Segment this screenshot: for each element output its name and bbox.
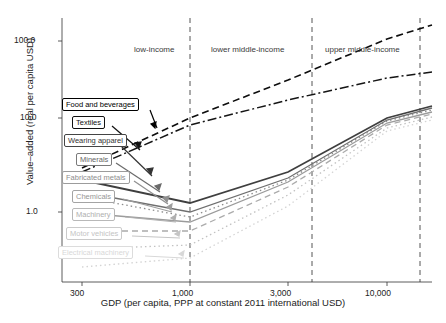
plot-area: [62, 18, 432, 282]
x-tick-3000: 3,000: [270, 288, 291, 298]
series-label-machinery: Machinery: [72, 208, 115, 221]
y-tick-100: 100.0: [14, 35, 35, 45]
region-label-lower-middle-income: lower middle-income: [211, 45, 284, 54]
series-label-minerals: Minerals: [76, 153, 112, 166]
region-label-low-income: low-income: [134, 45, 174, 54]
x-tick-1000: 1,000: [172, 288, 193, 298]
x-axis-label: GDP (per capita, PPP at constant 2011 in…: [0, 297, 446, 308]
y-tick-10: 10.0: [20, 112, 37, 122]
series-label-food-and-beverages: Food and beverages: [62, 98, 139, 111]
x-tick-300: 300: [70, 288, 84, 298]
x-tick-10000: 10,000: [365, 288, 391, 298]
chart-root: Value–added (real per capita USD) GDP (p…: [0, 0, 446, 323]
series-label-motor-vehicles: Motor vehicles: [66, 227, 122, 240]
series-label-textiles: Textiles: [72, 116, 105, 129]
series-label-chemicals: Chemicals: [72, 190, 115, 203]
series-label-fabricated-metals: Fabricated metals: [62, 171, 130, 184]
series-label-electrical-machinery: Electrical machinery: [58, 246, 133, 259]
y-tick-1: 1.0: [26, 206, 38, 216]
region-label-upper-middle-income: upper middle-income: [325, 45, 400, 54]
series-label-wearing-apparel: Wearing apparel: [64, 134, 127, 147]
